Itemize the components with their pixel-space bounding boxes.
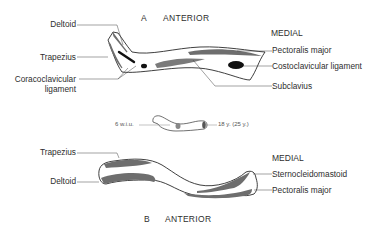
clavicle-diagram [0,0,375,233]
clavicle-growth-small [153,116,207,131]
ossification-center [176,123,181,129]
clavicle-a [108,32,265,80]
medial-epiphysis [202,122,206,129]
ligament-costoclavicular [228,61,244,69]
ligament-coracoclavicular-conoid [141,64,147,69]
clavicle-b [99,159,258,198]
